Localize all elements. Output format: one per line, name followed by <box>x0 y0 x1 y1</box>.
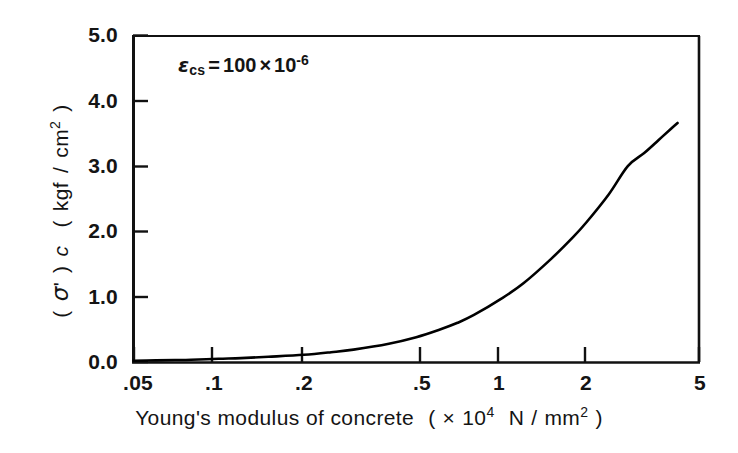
x-axis-times: × <box>443 406 456 429</box>
y-unit-numerator: kgf <box>49 182 72 211</box>
annotation-mantissa: 100 <box>223 54 256 76</box>
x-axis-title-main: Young's modulus of concrete <box>135 406 414 429</box>
y-unit-slash: / <box>49 167 72 173</box>
x-tick-label-2: .2 <box>295 371 313 395</box>
axis-frame <box>132 35 700 363</box>
y-axis-paren-close: ) <box>49 265 72 272</box>
chart-figure: 5.0 4.0 3.0 2.0 1.0 0.0 .05 .1 .2 .5 1 2… <box>0 0 738 453</box>
sigma-prime: ' <box>49 282 72 286</box>
x-tick-label-5: 2 <box>580 371 592 395</box>
y-tick-label-5: 5.0 <box>56 23 118 47</box>
x-tick-label-4: 1 <box>493 371 505 395</box>
y-axis-title: (σ')c(kgf/cm2) <box>47 46 73 376</box>
x-axis-paren-close: ) <box>595 406 602 429</box>
data-series-line <box>134 123 678 361</box>
x-axis-unit-denominator-exponent: 2 <box>580 404 588 420</box>
y-unit-denominator-exponent: 2 <box>47 121 63 129</box>
x-tick-label-3: .5 <box>413 371 431 395</box>
x-tick-label-0: .05 <box>123 371 153 395</box>
x-axis-title: Young's modulus of concrete(×104N/mm2) <box>0 404 738 430</box>
x-axis-unit-denominator: mm <box>544 406 580 429</box>
x-axis-unit-slash: / <box>531 406 537 429</box>
x-axis-paren-open: ( <box>428 406 435 429</box>
epsilon-symbol: ε <box>178 53 189 77</box>
annotation-exponent: -6 <box>296 52 308 68</box>
equals-sign: = <box>205 54 223 76</box>
y-axis-subscript-c: c <box>49 246 72 257</box>
annotation-strain-value: εcs=100×10-6 <box>178 52 309 78</box>
x-tick-label-6: 5 <box>694 371 706 395</box>
y-unit-paren-open: ( <box>49 220 72 227</box>
x-axis-unit-numerator: N <box>509 406 525 429</box>
x-axis-base: 10 <box>462 406 486 429</box>
y-unit-paren-close: ) <box>49 104 72 111</box>
annotation-base: 10 <box>274 54 296 76</box>
x-tick-label-1: .1 <box>205 371 223 395</box>
sigma-symbol: σ <box>47 286 73 301</box>
epsilon-subscript: cs <box>189 62 205 78</box>
y-tick-marks <box>133 36 148 363</box>
y-unit-denominator: cm <box>49 129 72 158</box>
y-axis-paren-open: ( <box>49 310 72 317</box>
x-axis-exponent: 4 <box>486 404 494 420</box>
multiply-sign: × <box>256 54 274 76</box>
